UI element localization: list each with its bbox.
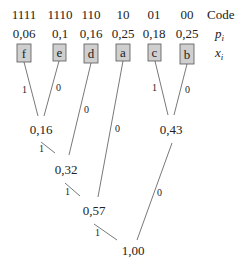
prob-a: 0,25 (112, 26, 135, 41)
symbol-c: c (152, 45, 158, 60)
node-016: 0,16 (30, 122, 53, 137)
prob-d: 0,16 (80, 26, 103, 41)
node-032: 0,32 (55, 162, 78, 177)
prob-c: 0,18 (143, 26, 166, 41)
symbol-b: b (184, 47, 191, 62)
code-f: 1111 (12, 7, 37, 22)
symbol-a: a (120, 45, 126, 60)
symbol-f: f (22, 46, 27, 61)
code-e: 1110 (47, 7, 72, 22)
code-header-label: Code (207, 7, 235, 22)
edge-label-d: 0 (84, 104, 89, 115)
tree-edges (24, 61, 187, 240)
huffman-tree-diagram: 1111 1110 110 10 01 00 Code 0,06 0,1 0,1… (0, 0, 241, 271)
edge-label-a: 0 (115, 123, 120, 134)
edge-label-016: 1 (39, 143, 44, 154)
code-d: 110 (81, 7, 100, 22)
edge-label-043: 0 (157, 187, 162, 198)
code-c: 01 (148, 7, 161, 22)
node-043: 0,43 (160, 122, 183, 137)
probability-row: 0,06 0,1 0,16 0,25 0,18 0,25 pi (13, 26, 225, 43)
node-057: 0,57 (83, 203, 106, 218)
edge-043-100 (137, 143, 172, 240)
edge-label-e: 0 (56, 82, 61, 93)
prob-f: 0,06 (13, 26, 36, 41)
code-row: 1111 1110 110 10 01 00 Code (12, 7, 235, 22)
node-100: 1,00 (122, 243, 145, 258)
prob-header-label: pi (214, 26, 225, 43)
prob-e: 0,1 (52, 26, 68, 41)
edge-label-032: 1 (65, 186, 70, 197)
edge-label-f: 1 (22, 84, 27, 95)
code-b: 00 (181, 7, 194, 22)
symbol-row: f e d a c b xi (17, 44, 224, 64)
symbol-d: d (88, 46, 95, 61)
edge-label-c: 1 (152, 82, 157, 93)
code-a: 10 (117, 7, 130, 22)
symbol-header-label: xi (214, 45, 224, 62)
edge-label-057: 1 (95, 227, 100, 238)
symbol-e: e (57, 45, 63, 60)
prob-b: 0,25 (176, 26, 199, 41)
edge-label-b: 0 (185, 84, 190, 95)
